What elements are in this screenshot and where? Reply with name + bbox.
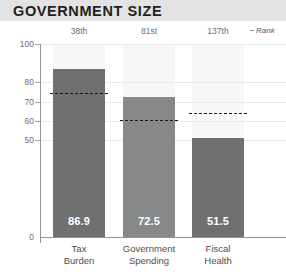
reference-line-fiscal-health [189, 113, 247, 114]
rank-value-fiscal-health: 137th [192, 26, 244, 36]
category-label-government-spending: Government Spending [113, 243, 185, 266]
rank-row: 38th 81st 137th Rank [0, 26, 286, 39]
y-tick-label-70: 70 [12, 97, 34, 107]
y-tick-mark-100 [35, 44, 40, 45]
y-tick-mark-50 [35, 140, 40, 141]
reference-line-tax-burden [50, 93, 108, 94]
bar-value-government-spending: 72.5 [123, 215, 175, 227]
y-tick-label-50: 50 [12, 135, 34, 145]
category-label-row: Tax Burden Government Spending Fiscal He… [0, 243, 286, 279]
chart-plot-area: 86.9 72.5 51.5 100 80 70 60 50 0 [0, 39, 286, 241]
category-label-fiscal-health: Fiscal Health [188, 243, 248, 266]
title-band: GOVERNMENT SIZE [0, 0, 286, 21]
y-tick-mark-60 [35, 121, 40, 122]
rank-value-government-spending: 81st [123, 26, 175, 36]
page-title: GOVERNMENT SIZE [13, 3, 162, 19]
rank-value-tax-burden: 38th [53, 26, 105, 36]
y-tick-label-60: 60 [12, 116, 34, 126]
y-tick-label-80: 80 [12, 77, 34, 87]
y-tick-mark-80 [35, 82, 40, 83]
bar-value-fiscal-health: 51.5 [192, 215, 244, 227]
y-axis-line [40, 44, 41, 243]
category-label-tax-burden: Tax Burden [49, 243, 109, 266]
rank-dash-icon [250, 30, 254, 31]
rank-annotation: Rank [250, 26, 275, 35]
rank-annotation-label: Rank [256, 26, 275, 35]
y-tick-label-0: 0 [12, 232, 34, 242]
bar-value-tax-burden: 86.9 [53, 215, 105, 227]
bar-tax-burden [53, 69, 105, 237]
gridline-100 [41, 44, 286, 45]
y-tick-label-100: 100 [12, 39, 34, 49]
y-tick-mark-70 [35, 102, 40, 103]
reference-line-government-spending [120, 120, 178, 121]
x-axis-baseline [40, 237, 286, 238]
